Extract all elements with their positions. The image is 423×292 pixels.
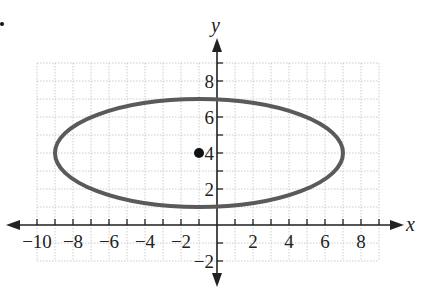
y-axis-up-arrow (212, 38, 222, 52)
x-tick-label: −6 (99, 231, 119, 252)
x-tick-label: 8 (356, 231, 366, 252)
x-tick-label: −10 (22, 231, 52, 252)
y-tick-label: 2 (205, 179, 215, 200)
x-axis-left-arrow (6, 220, 20, 230)
x-tick-label: −2 (171, 231, 191, 252)
center-point (194, 148, 204, 158)
x-tick-label: −4 (135, 231, 156, 252)
y-axis-label: y (209, 14, 220, 37)
problem-bullet (0, 22, 4, 26)
y-tick-label: 8 (205, 71, 215, 92)
x-tick-label: 6 (320, 231, 330, 252)
y-axis-down-arrow (212, 273, 222, 287)
x-tick-label: 2 (248, 231, 258, 252)
x-tick-label: 4 (284, 231, 294, 252)
ellipse-graph: −10−8−6−4−22468−22468 x y (0, 0, 423, 292)
x-axis-right-arrow (390, 220, 404, 230)
y-tick-label: 6 (205, 107, 215, 128)
y-tick-label: 4 (205, 143, 215, 164)
y-tick-label: −2 (194, 251, 214, 272)
x-tick-label: −8 (63, 231, 83, 252)
x-axis-label: x (405, 213, 415, 235)
